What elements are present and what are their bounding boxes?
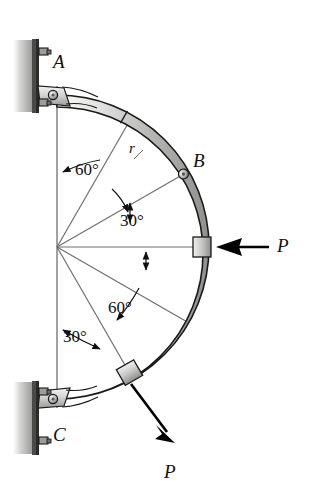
wall-surface-top	[13, 39, 39, 113]
wall-surface-bottom	[13, 381, 39, 455]
label-force-p-right: P	[277, 235, 289, 257]
angle-label-30-upper: 30°	[120, 211, 144, 231]
label-force-p-lower: P	[164, 461, 176, 483]
bolt-bottom-upper	[39, 388, 51, 395]
angle-label-60-lower: 60°	[108, 298, 132, 318]
collar-lower	[116, 360, 142, 386]
bolt-bottom-lower	[39, 437, 51, 444]
angle-label-30-lower: 30°	[63, 327, 87, 347]
label-point-b: B	[193, 150, 205, 172]
curved-bar-diagram	[0, 0, 313, 503]
bolt-top-upper	[39, 48, 51, 55]
label-point-c: C	[53, 424, 66, 446]
angle-label-60-upper: 60°	[75, 160, 99, 180]
radial-line-30-upper	[57, 171, 189, 247]
force-arrow-p-lower	[131, 384, 175, 443]
collar-right	[193, 237, 211, 257]
construction-lines	[57, 86, 205, 408]
force-arrow-p-right	[216, 238, 269, 256]
radius-leader	[134, 150, 143, 159]
label-radius-r: r	[129, 140, 135, 157]
label-point-a: A	[53, 51, 65, 73]
